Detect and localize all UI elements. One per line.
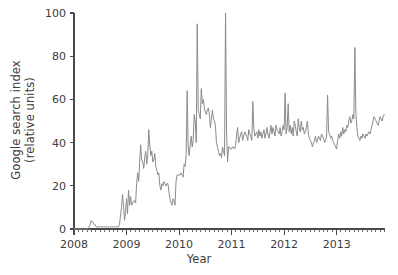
- chart-plot-area: 020406080100 200820092010201120122013: [0, 0, 398, 275]
- chart-axes: [74, 13, 385, 229]
- y-axis-tick-labels: 020406080100: [45, 7, 66, 236]
- svg-text:2011: 2011: [218, 238, 246, 251]
- svg-text:0: 0: [59, 223, 66, 236]
- svg-text:40: 40: [52, 137, 66, 150]
- svg-text:2009: 2009: [113, 238, 141, 251]
- search-index-line-series: [74, 13, 384, 229]
- chart-figure: 020406080100 200820092010201120122013 Go…: [0, 0, 398, 275]
- svg-text:2012: 2012: [270, 238, 298, 251]
- svg-text:2013: 2013: [323, 238, 351, 251]
- svg-text:2008: 2008: [60, 238, 88, 251]
- svg-text:2010: 2010: [165, 238, 193, 251]
- x-axis-label: Year: [0, 252, 398, 266]
- svg-text:60: 60: [52, 93, 66, 106]
- y-axis-ticks: [70, 13, 74, 229]
- x-axis-tick-labels: 200820092010201120122013: [60, 238, 351, 251]
- svg-text:100: 100: [45, 7, 66, 20]
- svg-text:80: 80: [52, 50, 66, 63]
- x-axis-ticks: [74, 229, 385, 235]
- svg-text:20: 20: [52, 180, 66, 193]
